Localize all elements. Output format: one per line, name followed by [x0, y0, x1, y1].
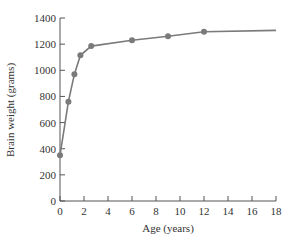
- x-tick-label: 0: [57, 205, 63, 217]
- y-tick-label: 1200: [34, 38, 57, 50]
- x-axis-ticks: 024681012141618: [57, 196, 282, 217]
- y-tick-label: 200: [40, 169, 57, 181]
- x-tick-label: 14: [223, 205, 235, 217]
- data-point-marker: [129, 37, 135, 43]
- y-tick-label: 0: [51, 195, 57, 207]
- data-point-marker: [88, 43, 94, 49]
- x-tick-label: 6: [129, 205, 135, 217]
- data-series: [57, 29, 276, 159]
- x-tick-label: 2: [81, 205, 87, 217]
- data-point-marker: [77, 52, 83, 58]
- x-tick-label: 12: [199, 205, 210, 217]
- x-tick-label: 16: [247, 205, 259, 217]
- x-tick-label: 8: [153, 205, 159, 217]
- y-tick-label: 400: [40, 143, 57, 155]
- series-line: [60, 30, 276, 155]
- data-point-marker: [65, 99, 71, 105]
- data-point-marker: [165, 33, 171, 39]
- y-tick-label: 800: [40, 90, 57, 102]
- data-point-marker: [71, 71, 77, 77]
- x-tick-label: 10: [175, 205, 187, 217]
- y-tick-label: 600: [40, 117, 57, 129]
- data-point-marker: [201, 29, 207, 35]
- y-tick-label: 1400: [34, 12, 57, 24]
- y-tick-label: 1000: [34, 64, 57, 76]
- x-tick-label: 18: [271, 205, 283, 217]
- y-axis-label: Brain weight (grams): [4, 63, 17, 157]
- x-tick-label: 4: [105, 205, 111, 217]
- data-point-marker: [57, 152, 63, 158]
- brain-weight-chart: 0200400600800100012001400 02468101214161…: [0, 0, 298, 247]
- x-axis-label: Age (years): [142, 222, 194, 235]
